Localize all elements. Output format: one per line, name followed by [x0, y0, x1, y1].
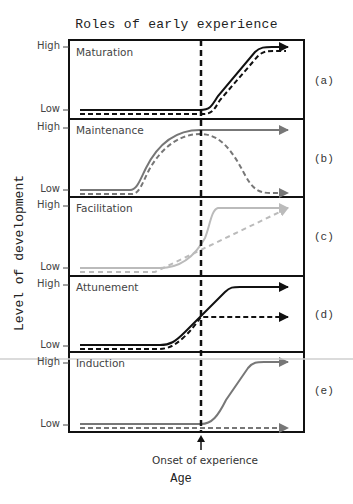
tick-high-e: High: [10, 356, 60, 367]
panel-id-a: (a): [314, 75, 334, 87]
panel-frames: [69, 40, 304, 432]
panel-c-curves: [80, 208, 288, 272]
onset-arrow-icon: [197, 435, 205, 450]
tick-high-c: High: [10, 199, 60, 210]
x-axis-label: Age: [0, 472, 353, 486]
tick-low-e: Low: [10, 418, 60, 429]
panel-name-a: Maturation: [76, 46, 133, 58]
tick-low-a: Low: [10, 103, 60, 114]
panel-id-c: (c): [314, 231, 334, 243]
panel-name-c: Facilitation: [76, 202, 133, 214]
panel-e-curves: [80, 362, 288, 428]
panel-name-d: Attunement: [76, 281, 138, 293]
panel-b-curves: [80, 130, 288, 194]
tick-low-b: Low: [10, 183, 60, 194]
panel-id-d: (d): [314, 309, 334, 321]
onset-label: Onset of experience: [0, 454, 353, 466]
tick-high-b: High: [10, 121, 60, 132]
panel-d-curves: [80, 287, 288, 349]
panel-name-e: Induction: [76, 357, 125, 369]
tick-low-c: Low: [10, 261, 60, 272]
tick-high-d: High: [10, 278, 60, 289]
panel-id-b: (b): [314, 153, 334, 165]
tick-high-a: High: [10, 40, 60, 51]
panel-id-e: (e): [314, 385, 334, 397]
tick-low-d: Low: [10, 339, 60, 350]
panel-name-b: Maintenance: [76, 124, 144, 136]
